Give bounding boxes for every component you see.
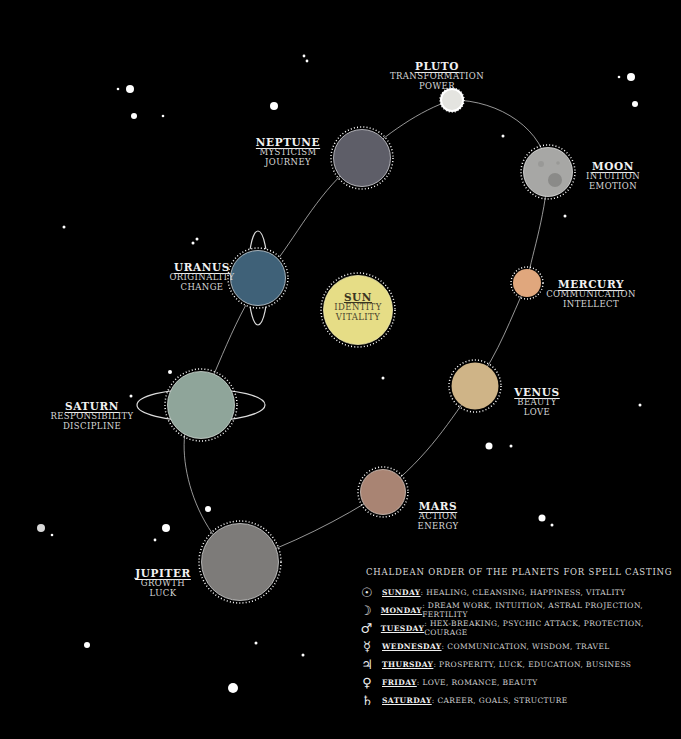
planet-keyword: LUCK bbox=[135, 589, 191, 599]
legend-row-thursday: ♃ THURSDAY : PROSPERITY, LUCK, EDUCATION… bbox=[356, 655, 676, 673]
planet-keyword: ENERGY bbox=[418, 522, 459, 532]
jupiter-symbol-icon: ♃ bbox=[356, 657, 378, 672]
label-neptune: NEPTUNE MYSTICISM JOURNEY bbox=[256, 136, 320, 168]
planet-keyword: POWER bbox=[390, 82, 484, 92]
label-jupiter: JUPITER GROWTH LUCK bbox=[135, 567, 191, 599]
planet-pluto[interactable] bbox=[440, 88, 464, 112]
label-sun: SUN IDENTITY VITALITY bbox=[334, 291, 381, 323]
legend-title: CHALDEAN ORDER OF THE PLANETS FOR SPELL … bbox=[366, 567, 676, 577]
planet-keyword: JOURNEY bbox=[256, 158, 320, 168]
legend-row-wednesday: ☿ WEDNESDAY : COMMUNICATION, WISDOM, TRA… bbox=[356, 637, 676, 655]
mercury-symbol-icon: ☿ bbox=[356, 639, 378, 654]
label-moon: MOON INTUITION EMOTION bbox=[586, 160, 640, 192]
label-mercury: MERCURY COMMUNICATION INTELLECT bbox=[546, 278, 636, 310]
label-mars: MARS ACTION ENERGY bbox=[418, 500, 459, 532]
day-description: : LOVE, ROMANCE, BEAUTY bbox=[417, 678, 538, 687]
label-uranus: URANUS ORIGINALITY CHANGE bbox=[169, 261, 234, 293]
label-pluto: PLUTO TRANSFORMATION POWER bbox=[390, 60, 484, 92]
day-label: SATURDAY bbox=[382, 696, 432, 705]
day-label: FRIDAY bbox=[382, 678, 417, 687]
sun-keyword: VITALITY bbox=[334, 313, 381, 323]
day-description: : CAREER, GOALS, STRUCTURE bbox=[432, 696, 568, 705]
planet-keyword: EMOTION bbox=[586, 182, 640, 192]
day-description: : PROSPERITY, LUCK, EDUCATION, BUSINESS bbox=[433, 660, 631, 669]
legend-row-tuesday: ♂ TUESDAY : HEX-BREAKING, PSYCHIC ATTACK… bbox=[356, 619, 676, 637]
day-description: : COMMUNICATION, WISDOM, TRAVEL bbox=[442, 642, 610, 651]
chaldean-legend: CHALDEAN ORDER OF THE PLANETS FOR SPELL … bbox=[356, 567, 676, 709]
day-description: : HEX-BREAKING, PSYCHIC ATTACK, PROTECTI… bbox=[424, 619, 676, 637]
legend-row-sunday: ☉ SUNDAY : HEALING, CLEANSING, HAPPINESS… bbox=[356, 583, 676, 601]
legend-row-monday: ☽ MONDAY : DREAM WORK, INTUITION, ASTRAL… bbox=[356, 601, 676, 619]
legend-row-friday: ♀ FRIDAY : LOVE, ROMANCE, BEAUTY bbox=[356, 673, 676, 691]
sun-symbol-icon: ☉ bbox=[356, 585, 378, 600]
day-description: : DREAM WORK, INTUITION, ASTRAL PROJECTI… bbox=[422, 601, 676, 619]
day-label: WEDNESDAY bbox=[382, 642, 442, 651]
day-label: TUESDAY bbox=[381, 624, 424, 633]
day-label: SUNDAY bbox=[382, 588, 421, 597]
day-description: : HEALING, CLEANSING, HAPPINESS, VITALIT… bbox=[421, 588, 626, 597]
mars-symbol-icon: ♂ bbox=[356, 621, 377, 636]
planet-keyword: DISCIPLINE bbox=[50, 422, 133, 432]
venus-symbol-icon: ♀ bbox=[356, 675, 378, 690]
legend-row-saturday: ♄ SATURDAY : CAREER, GOALS, STRUCTURE bbox=[356, 691, 676, 709]
day-label: MONDAY bbox=[381, 606, 422, 615]
planet-uranus[interactable] bbox=[228, 248, 288, 308]
planet-keyword: INTELLECT bbox=[546, 300, 636, 310]
planet-keyword: CHANGE bbox=[169, 283, 234, 293]
day-label: THURSDAY bbox=[382, 660, 433, 669]
moon-symbol-icon: ☽ bbox=[356, 603, 377, 618]
label-saturn: SATURN RESPONSIBILITY DISCIPLINE bbox=[50, 400, 133, 432]
planet-keyword: LOVE bbox=[514, 408, 560, 418]
label-venus: VENUS BEAUTY LOVE bbox=[514, 386, 560, 418]
saturn-symbol-icon: ♄ bbox=[356, 693, 378, 708]
